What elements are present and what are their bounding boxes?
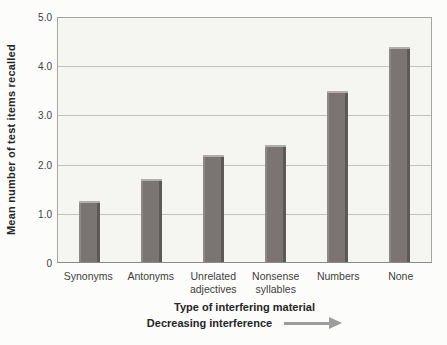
y-tick-label: 5.0 [38, 12, 52, 23]
x-axis-title: Type of interfering material [57, 301, 432, 313]
bar-unrelated [203, 155, 224, 262]
bar-none [389, 47, 410, 262]
bar-slot [245, 18, 307, 262]
y-tick-label: 2.0 [38, 159, 52, 170]
y-tick-label: 4.0 [38, 61, 52, 72]
bar-synonyms [79, 201, 100, 262]
category-label: Numbers [307, 270, 370, 295]
bar-slot [307, 18, 369, 262]
bar-chart-figure: Mean number of test items recalled 5.04.… [0, 0, 447, 345]
bar-slot [120, 18, 182, 262]
category-label: None [370, 270, 433, 295]
arrow-shaft [284, 322, 329, 325]
y-tick-label: 1.0 [38, 208, 52, 219]
plot-area [57, 17, 432, 263]
category-label: Antonyms [120, 270, 183, 295]
bar-slot [182, 18, 244, 262]
y-axis-tick-labels: 5.04.03.02.01.00 [0, 17, 52, 263]
bar-antonyms [141, 179, 162, 262]
bars-container [58, 18, 431, 262]
bar-numbers [327, 91, 348, 262]
bar-slot [369, 18, 431, 262]
annotation-row: Decreasing interference [57, 317, 432, 329]
category-label: Nonsense syllables [245, 270, 308, 295]
bar-slot [58, 18, 120, 262]
category-label: Synonyms [57, 270, 120, 295]
y-tick-label: 3.0 [38, 110, 52, 121]
y-tick-label: 0 [46, 258, 52, 269]
decreasing-interference-label: Decreasing interference [147, 317, 272, 329]
bar-nonsense [265, 145, 286, 262]
arrow-head [329, 317, 342, 329]
right-arrow-icon [284, 317, 342, 329]
category-label: Unrelated adjectives [182, 270, 245, 295]
x-axis-category-labels: SynonymsAntonymsUnrelated adjectivesNons… [57, 270, 432, 295]
